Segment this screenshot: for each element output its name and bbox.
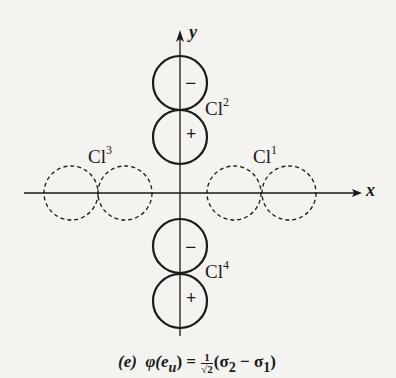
cl2-lower-sign: + (186, 124, 196, 145)
x-axis-label: x (366, 180, 375, 201)
orbital-diagram (0, 0, 396, 378)
fraction: 1√2 (201, 352, 213, 375)
figure-caption: (e) φ(eu) = 1√2(σ2 − σ1) (118, 352, 276, 376)
cl2-label: Cl2 (205, 99, 229, 118)
cl4-upper-sign: − (185, 236, 196, 259)
cl4-label: Cl4 (205, 262, 229, 281)
y-axis-label: y (189, 22, 197, 43)
cl1-label: Cl1 (253, 147, 277, 166)
cl3-label: Cl3 (88, 147, 112, 166)
cl2-upper-sign: − (185, 72, 196, 95)
cl4-lower-sign: + (186, 288, 196, 309)
